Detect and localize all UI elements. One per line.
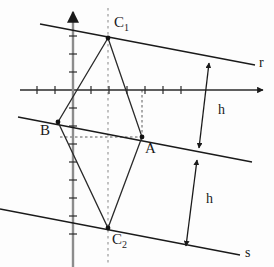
parallel-lines	[0, 24, 255, 255]
point-label-c2-letter: C	[112, 231, 122, 247]
line-label-s: s	[245, 246, 250, 260]
point-label-c1: C1	[114, 15, 129, 33]
vertex-dot-b	[56, 120, 61, 125]
measure-arrow-h-lower	[186, 160, 197, 246]
vertex-dot-a	[140, 135, 145, 140]
point-label-b: B	[40, 123, 50, 141]
point-label-a-letter: A	[145, 140, 156, 156]
point-label-a: A	[145, 141, 156, 159]
point-label-b-letter: B	[40, 122, 50, 138]
geometry-diagram: C1 B A C2 r s h h	[0, 0, 274, 267]
point-label-c2: C2	[112, 232, 127, 250]
vertex-dot-c2	[106, 226, 111, 231]
line-label-r: r	[259, 56, 264, 70]
measure-arrow-h-upper	[199, 63, 209, 148]
point-label-c1-letter: C	[114, 14, 124, 30]
vertex-dot-c1	[106, 36, 111, 41]
point-label-c1-subscript: 1	[124, 22, 129, 33]
measure-label-h-upper: h	[218, 103, 225, 117]
measure-label-h-lower: h	[206, 192, 213, 206]
point-label-c2-subscript: 2	[122, 239, 127, 250]
